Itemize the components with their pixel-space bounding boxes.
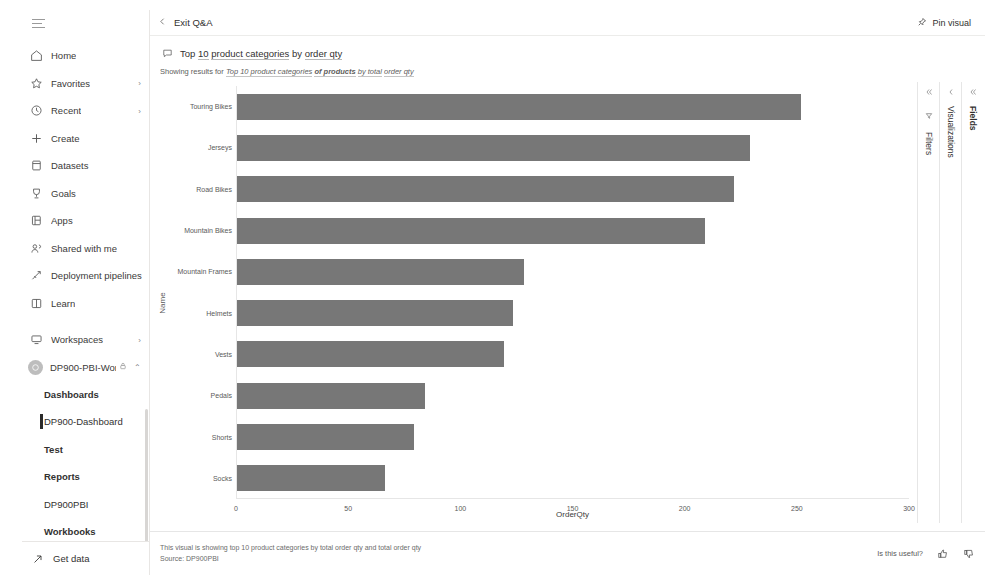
bar-row[interactable]: Mountain Frames — [237, 259, 909, 285]
chevron-left-icon[interactable] — [947, 88, 955, 98]
bar-row[interactable]: Socks — [237, 465, 909, 491]
sidebar-item-deployment-pipelines[interactable]: Deployment pipelines — [22, 262, 149, 290]
chevron-right-icon: › — [138, 79, 141, 88]
bar-row[interactable]: Pedals — [237, 383, 909, 409]
qa-question-text: Top 10 product categories by order qty — [180, 48, 342, 59]
sidebar-divider — [22, 317, 149, 326]
sidebar-item-apps[interactable]: Apps — [22, 207, 149, 235]
right-panel-group: Filters Visualizations Fields — [917, 82, 985, 523]
thumbs-up-icon[interactable] — [937, 548, 949, 560]
bar-category-label: Vests — [215, 351, 232, 358]
bar[interactable] — [237, 135, 750, 161]
hamburger-icon — [32, 19, 45, 28]
bar[interactable] — [237, 341, 504, 367]
pipelines-icon — [28, 268, 44, 284]
tree-item-label: DP900-Dashboard — [44, 416, 123, 427]
chevron-right-icon: › — [138, 335, 141, 344]
clock-icon — [28, 103, 44, 119]
lock-icon — [119, 362, 127, 372]
bar[interactable] — [237, 176, 734, 202]
qa-chat-icon — [162, 48, 173, 59]
tree-item-reports[interactable]: Reports — [22, 463, 149, 491]
bar-row[interactable]: Jerseys — [237, 135, 909, 161]
goals-icon — [28, 185, 44, 201]
chevrons-left-icon[interactable] — [969, 88, 977, 98]
get-data-button[interactable]: Get data — [22, 541, 149, 575]
bar[interactable] — [237, 465, 385, 491]
bar-category-label: Helmets — [206, 310, 232, 317]
sidebar-item-home[interactable]: Home — [22, 42, 149, 70]
visual-description-line1: This visual is showing top 10 product ca… — [160, 543, 421, 554]
qa-result-part4: order qty — [384, 67, 414, 77]
tree-item-dp900pbi[interactable]: DP900PBI — [22, 491, 149, 519]
panel-title: Visualizations — [946, 106, 956, 158]
bar[interactable] — [237, 218, 705, 244]
sidebar-item-goals[interactable]: Goals — [22, 180, 149, 208]
tree-item-label: Dashboards — [44, 389, 99, 400]
plus-icon — [28, 130, 44, 146]
workspace-header[interactable]: DP900-PBI-Work... ⌃ — [22, 354, 149, 381]
sidebar-item-label: Recent — [51, 105, 81, 116]
bar[interactable] — [237, 383, 425, 409]
sidebar-item-label: Favorites — [51, 78, 90, 89]
pin-visual-button[interactable]: Pin visual — [917, 17, 977, 29]
chevrons-left-icon[interactable] — [925, 88, 933, 98]
get-data-icon — [30, 553, 46, 565]
sidebar-item-shared-with-me[interactable]: Shared with me — [22, 235, 149, 263]
sidebar-item-label: Learn — [51, 298, 75, 309]
sidebar-item-label: Workspaces — [51, 334, 103, 345]
qa-result-text: Showing results for Top 10 product categ… — [150, 67, 985, 76]
panel-title: Fields — [968, 106, 978, 131]
tree-item-label: Test — [44, 444, 63, 455]
hamburger-menu-button[interactable] — [22, 10, 149, 36]
bar-row[interactable]: Shorts — [237, 424, 909, 450]
tree-item-test[interactable]: Test — [22, 436, 149, 464]
chevron-right-icon: › — [138, 106, 141, 115]
qa-entity-measure: order qty — [305, 48, 343, 60]
bar[interactable] — [237, 94, 801, 120]
feedback-group: Is this useful? — [877, 548, 975, 560]
pin-visual-label: Pin visual — [932, 18, 971, 28]
chevron-up-icon[interactable]: ⌃ — [134, 363, 141, 372]
tree-item-dp900-dashboard[interactable]: DP900-Dashboard — [22, 408, 149, 436]
exit-qa-button[interactable]: Exit Q&A — [158, 17, 213, 28]
powerbi-qa-page: Home Favorites › Recent › Cr — [0, 0, 1007, 585]
bar-row[interactable]: Vests — [237, 341, 909, 367]
sidebar-item-datasets[interactable]: Datasets — [22, 152, 149, 180]
chevron-left-icon — [158, 17, 167, 28]
workspace-tree: Dashboards DP900-Dashboard Test Reports … — [22, 381, 149, 542]
home-icon — [28, 48, 44, 64]
sidebar-item-workspaces[interactable]: Workspaces › — [22, 326, 149, 354]
workspace-name: DP900-PBI-Work... — [50, 362, 116, 373]
sidebar-item-recent[interactable]: Recent › — [22, 97, 149, 125]
qa-by: by — [289, 48, 304, 59]
bar-chart[interactable]: Name Touring BikesJerseysRoad BikesMount… — [150, 82, 917, 523]
sidebar-item-favorites[interactable]: Favorites › — [22, 70, 149, 98]
bar[interactable] — [237, 300, 513, 326]
bar-row[interactable]: Mountain Bikes — [237, 218, 909, 244]
qa-question-input[interactable]: Top 10 product categories by order qty — [150, 41, 985, 65]
x-axis-title: OrderQty — [556, 510, 589, 519]
panel-visualizations[interactable]: Visualizations — [939, 82, 961, 523]
x-axis-line — [236, 498, 909, 499]
panel-filters[interactable]: Filters — [917, 82, 939, 523]
bar-row[interactable]: Helmets — [237, 300, 909, 326]
bar-row[interactable]: Road Bikes — [237, 176, 909, 202]
visual-description: This visual is showing top 10 product ca… — [160, 543, 421, 565]
sidebar-item-learn[interactable]: Learn — [22, 290, 149, 318]
sidebar-item-create[interactable]: Create — [22, 125, 149, 153]
thumbs-down-icon[interactable] — [963, 548, 975, 560]
sidebar-item-label: Datasets — [51, 160, 89, 171]
sidebar-scrollbar[interactable] — [145, 409, 148, 542]
get-data-label: Get data — [53, 553, 89, 564]
bar[interactable] — [237, 424, 414, 450]
tree-item-dashboards[interactable]: Dashboards — [22, 381, 149, 409]
bar-category-label: Mountain Frames — [178, 268, 232, 275]
bar[interactable] — [237, 259, 524, 285]
qa-visual-container: Name Touring BikesJerseysRoad BikesMount… — [150, 82, 985, 575]
panel-fields[interactable]: Fields — [961, 82, 983, 523]
learn-icon — [28, 295, 44, 311]
bar-row[interactable]: Touring Bikes — [237, 94, 909, 120]
qa-prefix: Top — [180, 48, 198, 59]
tree-item-workbooks[interactable]: Workbooks — [22, 518, 149, 541]
